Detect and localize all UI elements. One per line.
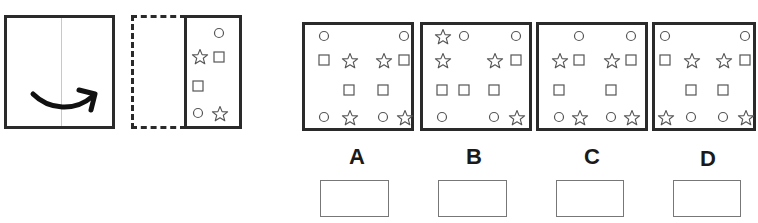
circle-icon: [603, 109, 619, 125]
star-icon: [396, 109, 412, 125]
circle-icon: [486, 109, 502, 125]
option-panel-d[interactable]: [652, 22, 756, 131]
square-icon: [341, 82, 357, 98]
square-icon: [715, 82, 731, 98]
circle-icon: [375, 109, 391, 125]
option-label-d: D: [688, 146, 728, 172]
star-icon: [551, 52, 567, 68]
circle-icon: [434, 109, 450, 125]
folded-paper-ghost: [131, 15, 186, 129]
circle-icon: [737, 28, 753, 44]
option-panel-c[interactable]: [536, 22, 648, 131]
circle-icon: [571, 28, 587, 44]
option-panel-b[interactable]: [420, 22, 532, 131]
circle-icon: [211, 25, 227, 41]
circle-icon: [715, 109, 731, 125]
star-icon: [623, 109, 639, 125]
circle-icon: [316, 28, 332, 44]
star-icon: [375, 52, 391, 68]
square-icon: [316, 52, 332, 68]
square-icon: [508, 52, 524, 68]
star-icon: [434, 52, 450, 68]
square-icon: [396, 52, 412, 68]
answer-box-b[interactable]: [438, 180, 507, 217]
option-panel-a[interactable]: [302, 22, 414, 131]
star-icon: [657, 109, 673, 125]
circle-icon: [396, 28, 412, 44]
star-icon: [603, 52, 619, 68]
circle-icon: [623, 28, 639, 44]
circle-icon: [316, 109, 332, 125]
square-icon: [623, 52, 639, 68]
square-icon: [190, 78, 206, 94]
circle-icon: [456, 28, 472, 44]
option-label-c: C: [572, 144, 612, 170]
star-icon: [683, 52, 699, 68]
circle-icon: [508, 28, 524, 44]
answer-box-a[interactable]: [320, 180, 389, 217]
square-icon: [571, 52, 587, 68]
star-icon: [571, 109, 587, 125]
square-icon: [456, 82, 472, 98]
circle-icon: [551, 109, 567, 125]
square-icon: [737, 52, 753, 68]
star-icon: [211, 105, 227, 121]
square-icon: [683, 82, 699, 98]
square-icon: [375, 82, 391, 98]
square-icon: [657, 52, 673, 68]
star-icon: [434, 28, 450, 44]
circle-icon: [190, 105, 206, 121]
square-icon: [486, 82, 502, 98]
square-icon: [603, 82, 619, 98]
curved-arrow-right-icon: [29, 74, 101, 118]
unfolded-paper: [4, 15, 115, 129]
square-icon: [551, 82, 567, 98]
option-label-a: A: [337, 144, 377, 170]
square-icon: [434, 82, 450, 98]
circle-icon: [657, 28, 673, 44]
star-icon: [508, 109, 524, 125]
star-icon: [191, 48, 207, 64]
star-icon: [737, 109, 753, 125]
square-icon: [211, 49, 227, 65]
answer-box-c[interactable]: [556, 180, 624, 217]
option-label-b: B: [454, 144, 494, 170]
circle-icon: [683, 109, 699, 125]
star-icon: [341, 109, 357, 125]
answer-box-d[interactable]: [673, 180, 741, 217]
star-icon: [341, 52, 357, 68]
star-icon: [715, 52, 731, 68]
star-icon: [486, 52, 502, 68]
